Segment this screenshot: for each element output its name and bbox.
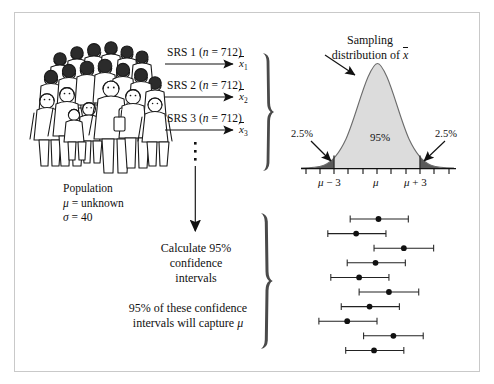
interval-point-estimate xyxy=(344,318,350,324)
figure-frame: Population μ = unknown σ = 40 xyxy=(14,12,480,372)
interval-point-estimate xyxy=(373,260,379,266)
interval-point-estimate xyxy=(356,275,362,281)
confidence-intervals-chart xyxy=(15,13,481,373)
interval-point-estimate xyxy=(386,289,392,295)
confidence-interval-row xyxy=(328,230,386,237)
confidence-interval-row xyxy=(359,289,419,296)
confidence-interval-row xyxy=(347,259,405,266)
figure-stage: Population μ = unknown σ = 40 xyxy=(15,13,479,371)
confidence-interval-row xyxy=(331,274,389,281)
confidence-interval-row xyxy=(341,303,399,310)
confidence-interval-row xyxy=(350,216,408,223)
interval-point-estimate xyxy=(371,348,377,354)
confidence-interval-row xyxy=(374,245,434,252)
interval-point-estimate xyxy=(353,231,359,237)
confidence-interval-row xyxy=(364,332,424,339)
interval-point-estimate xyxy=(401,245,407,251)
confidence-interval-row xyxy=(319,318,377,325)
interval-point-estimate xyxy=(391,333,397,339)
interval-point-estimate xyxy=(376,216,382,222)
confidence-interval-row xyxy=(346,347,404,354)
interval-point-estimate xyxy=(367,304,373,310)
